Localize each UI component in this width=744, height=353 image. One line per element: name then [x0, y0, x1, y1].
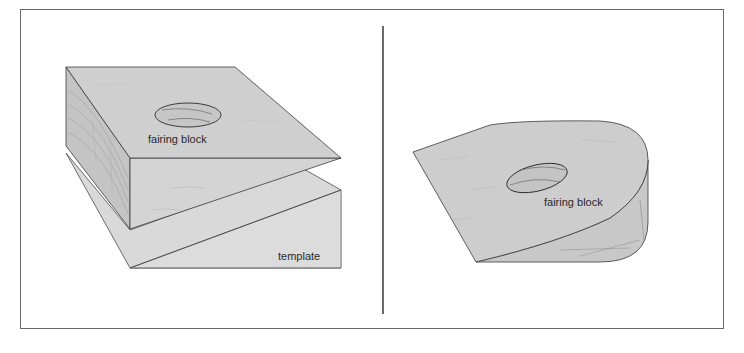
right-fairing-block-label: fairing block — [544, 196, 603, 208]
right-illustration — [0, 0, 744, 353]
